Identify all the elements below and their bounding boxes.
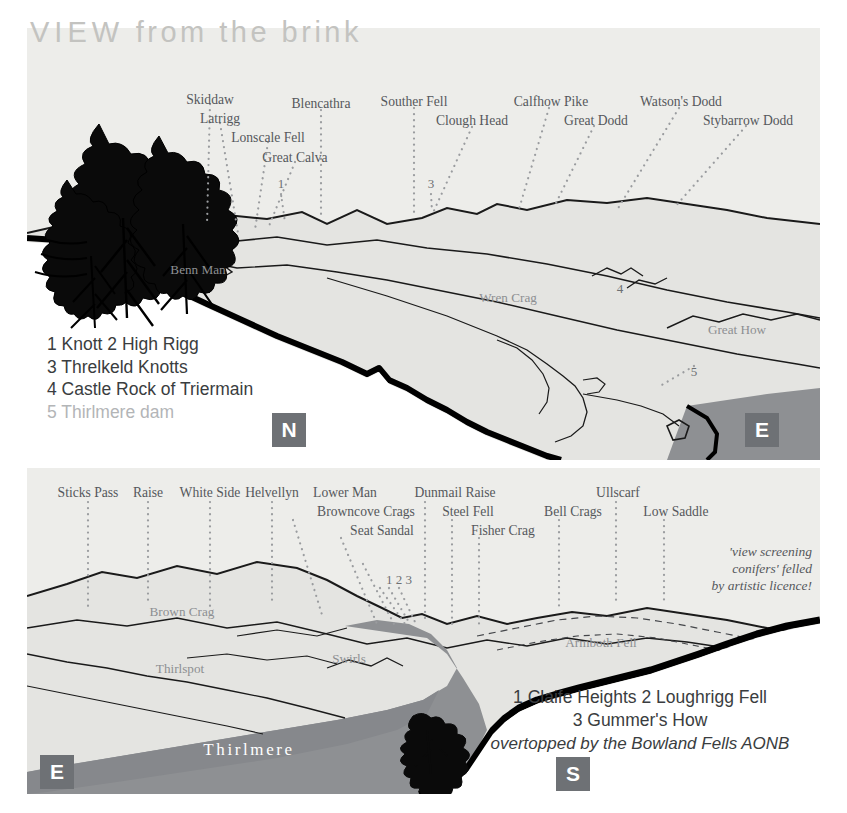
page-title: VIEW from the brink bbox=[30, 16, 362, 49]
feature-label-swirls: Swirls bbox=[332, 651, 366, 667]
view-from-the-brink-panorama: VIEW from the brink Skiddaw Latrigg Lons… bbox=[0, 0, 847, 813]
south-legend: 1 Claife Heights 2 Loughrigg Fell 3 Gumm… bbox=[491, 686, 790, 755]
peak-label-sticks-pass: Sticks Pass bbox=[58, 485, 119, 501]
peak-label-latrigg: Latrigg bbox=[200, 111, 240, 127]
compass-badge-n: N bbox=[272, 413, 306, 447]
feature-label-armboth-fell: Armboth Fell bbox=[565, 635, 636, 651]
peak-label-raise: Raise bbox=[133, 485, 163, 501]
compass-badge-s: S bbox=[556, 757, 590, 791]
feature-label-wren-crag: Wren Crag bbox=[479, 290, 537, 306]
north-legend: 1 Knott 2 High Rigg 3 Threlkeld Knotts 4… bbox=[47, 333, 253, 423]
peak-markers-123: 1 2 3 bbox=[386, 572, 412, 588]
feature-label-great-how: Great How bbox=[708, 322, 766, 338]
peak-label-stybarrow-dodd: Stybarrow Dodd bbox=[703, 113, 793, 129]
feature-marker-5: 5 bbox=[691, 364, 698, 380]
artistic-licence-note: 'view screening conifers' felled by arti… bbox=[712, 543, 812, 594]
title-lead: VIEW bbox=[30, 16, 124, 48]
north-legend-line-1: 1 Knott 2 High Rigg bbox=[47, 333, 253, 356]
peak-label-calfhow-pike: Calfhow Pike bbox=[514, 94, 588, 110]
note-line-3: by artistic licence! bbox=[712, 577, 812, 594]
lake-label-thirlmere: Thirlmere bbox=[203, 740, 294, 760]
peak-label-great-calva: Great Calva bbox=[262, 150, 327, 166]
note-line-1: 'view screening bbox=[712, 543, 812, 560]
south-legend-line-2: 3 Gummer's How bbox=[491, 709, 790, 732]
peak-label-ullscarf: Ullscarf bbox=[596, 485, 640, 501]
peak-label-helvellyn: Helvellyn bbox=[245, 485, 299, 501]
peak-label-fisher-crag: Fisher Crag bbox=[471, 523, 535, 539]
peak-marker-1: 1 bbox=[278, 176, 285, 192]
peak-marker-3: 3 bbox=[428, 176, 435, 192]
north-legend-line-3: 4 Castle Rock of Triermain bbox=[47, 378, 253, 401]
note-line-2: conifers' felled bbox=[712, 560, 812, 577]
peak-label-browncove-crags: Browncove Crags bbox=[317, 504, 415, 520]
compass-badge-e-lower: E bbox=[40, 755, 74, 789]
south-legend-line-1: 1 Claife Heights 2 Loughrigg Fell bbox=[491, 686, 790, 709]
peak-label-steel-fell: Steel Fell bbox=[442, 504, 494, 520]
peak-label-bell-crags: Bell Crags bbox=[544, 504, 602, 520]
peak-label-white-side: White Side bbox=[180, 485, 241, 501]
peak-label-great-dodd: Great Dodd bbox=[564, 113, 628, 129]
peak-label-watsons-dodd: Watson's Dodd bbox=[640, 94, 722, 110]
peak-label-clough-head: Clough Head bbox=[436, 113, 508, 129]
peak-label-dunmail-raise: Dunmail Raise bbox=[414, 485, 495, 501]
peak-label-lonscale-fell: Lonscale Fell bbox=[231, 130, 305, 146]
peak-label-skiddaw: Skiddaw bbox=[186, 92, 234, 108]
peak-label-blencathra: Blencathra bbox=[292, 96, 351, 112]
south-legend-italic: overtopped by the Bowland Fells AONB bbox=[491, 732, 790, 755]
peak-label-low-saddle: Low Saddle bbox=[643, 504, 708, 520]
peak-label-seat-sandal: Seat Sandal bbox=[350, 523, 414, 539]
title-rest: from the brink bbox=[124, 16, 362, 48]
north-legend-line-2: 3 Threlkeld Knotts bbox=[47, 356, 253, 379]
peak-label-lower-man: Lower Man bbox=[313, 485, 377, 501]
north-legend-line-4: 5 Thirlmere dam bbox=[47, 401, 253, 424]
feature-label-thirlspot: Thirlspot bbox=[156, 661, 204, 677]
compass-badge-e-upper: E bbox=[745, 413, 779, 447]
peak-label-souther-fell: Souther Fell bbox=[381, 94, 448, 110]
feature-label-benn-man: Benn Man bbox=[170, 262, 225, 278]
feature-label-brown-crag: Brown Crag bbox=[150, 604, 215, 620]
feature-marker-4: 4 bbox=[617, 281, 624, 297]
